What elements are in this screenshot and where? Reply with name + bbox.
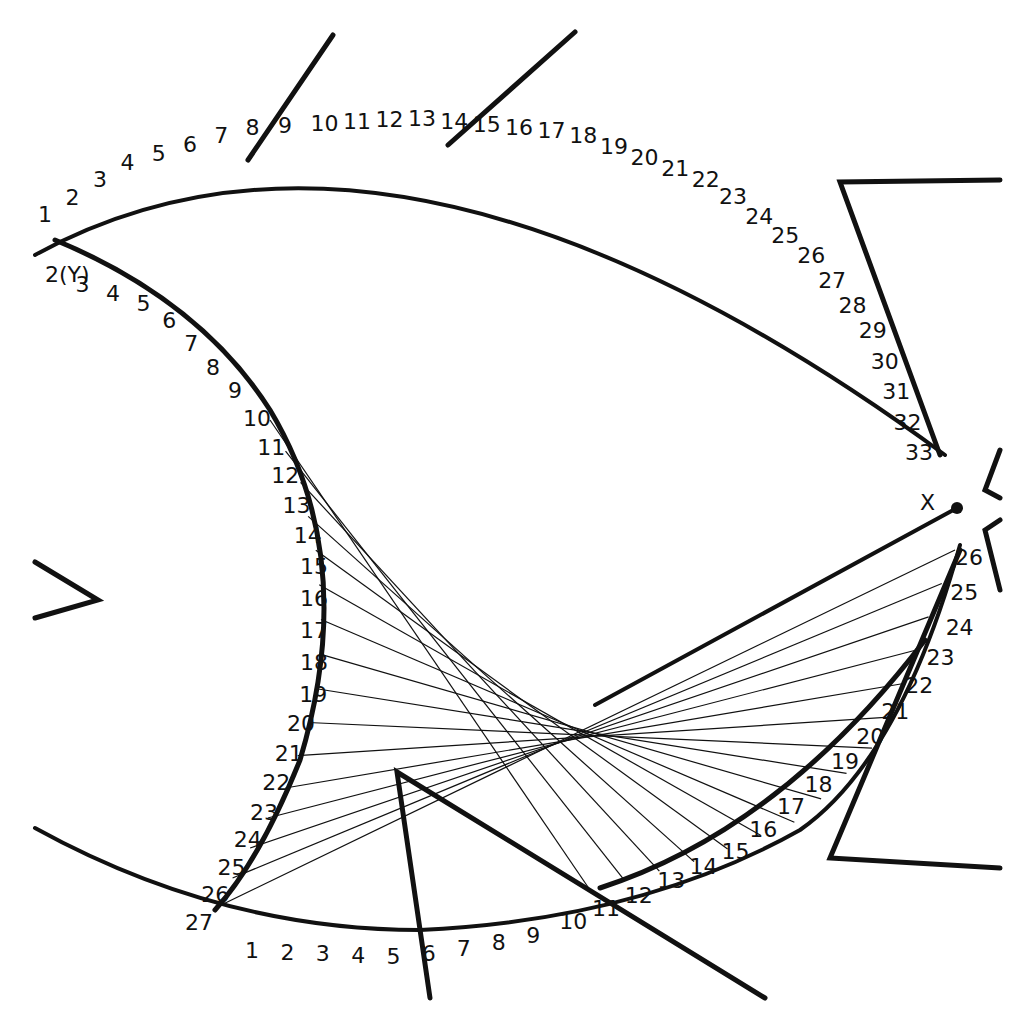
top-arc-label: 32 — [894, 410, 922, 435]
left-arc-label: 14 — [294, 523, 322, 548]
top-arc-label: 7 — [214, 123, 228, 148]
left-arc-label: 21 — [275, 741, 303, 766]
bottom-arc-label: 17 — [777, 794, 805, 819]
left-arc-label: 13 — [282, 493, 310, 518]
left-arc-label: 22 — [262, 770, 290, 795]
bottom-arc-label: 12 — [625, 883, 653, 908]
left-arc-label: 4 — [106, 281, 120, 306]
top-arc-label: 23 — [719, 184, 747, 209]
top-arc-label: 1 — [38, 202, 52, 227]
bold-line-top-left — [248, 35, 333, 160]
string-art-diagram: 1234567891011121314151617181920212223242… — [0, 0, 1029, 1026]
top-arc-label: 28 — [838, 293, 866, 318]
bottom-arc-label: 16 — [749, 817, 777, 842]
top-arc-label: 21 — [661, 156, 689, 181]
string-line — [308, 516, 694, 861]
bottom-arc-label: 24 — [946, 615, 974, 640]
bold-chevron-left — [35, 562, 98, 618]
left-arc-label: 5 — [137, 291, 151, 316]
bottom-arc-label: 25 — [950, 580, 978, 605]
left-arc-label: 9 — [228, 378, 242, 403]
bottom-arc-label: 18 — [805, 772, 833, 797]
left-arc-label: 8 — [206, 355, 220, 380]
left-arc-label: 6 — [162, 308, 176, 333]
top-arc-label: 17 — [537, 118, 565, 143]
top-arc-label: 3 — [93, 167, 107, 192]
bottom-arc-label: 7 — [457, 936, 471, 961]
string-line — [250, 617, 928, 848]
top-arc-label: 6 — [183, 132, 197, 157]
top-arc-label: 19 — [600, 134, 628, 159]
left-arc-label: 11 — [257, 435, 285, 460]
string-line — [321, 619, 794, 822]
left-arc-label: 26 — [201, 882, 229, 907]
bottom-arc-label: 15 — [722, 839, 750, 864]
left-arc-label: 3 — [76, 272, 90, 297]
bold-chevron-right-top — [985, 450, 1000, 498]
bottom-arc-label: 26 — [955, 545, 983, 570]
top-arc-label: 15 — [473, 112, 501, 137]
top-arc-label: 16 — [505, 115, 533, 140]
bottom-arc-label: 5 — [387, 944, 401, 969]
top-arc-label: 4 — [120, 150, 134, 175]
bottom-arc-label: 21 — [881, 699, 909, 724]
top-arc-label: 30 — [871, 349, 899, 374]
left-arc-label: 25 — [218, 855, 246, 880]
bottom-arc-label: 2 — [280, 940, 294, 965]
top-arc-label: 11 — [343, 109, 371, 134]
top-arc-label: 33 — [905, 440, 933, 465]
top-arc-label: 26 — [797, 243, 825, 268]
bottom-arc-label: 4 — [351, 943, 365, 968]
bottom-arc-label: 8 — [492, 930, 506, 955]
top-arc-label: 9 — [278, 113, 292, 138]
bottom-arc-label: 20 — [856, 724, 884, 749]
top-arc-label: 31 — [882, 379, 910, 404]
bottom-arc-label: 14 — [690, 854, 718, 879]
left-arc-label: 18 — [300, 650, 328, 675]
top-arc-label: 12 — [375, 107, 403, 132]
bottom-arc-label: 11 — [592, 896, 620, 921]
bottom-arc-label: 22 — [905, 673, 933, 698]
bottom-arc-label: 23 — [927, 645, 955, 670]
left-arc-label: 15 — [300, 554, 328, 579]
top-arc-label: 22 — [692, 167, 720, 192]
point-x-label: X — [920, 490, 935, 515]
bottom-arc-label: 6 — [422, 941, 436, 966]
top-arc-label: 24 — [745, 204, 773, 229]
left-arc-label: 17 — [300, 618, 328, 643]
left-arc-label: 19 — [299, 682, 327, 707]
left-arc-label: 20 — [287, 711, 315, 736]
bottom-arc-label: 1 — [245, 938, 259, 963]
bottom-arc-label: 9 — [526, 923, 540, 948]
top-arc-label: 10 — [311, 111, 339, 136]
left-arc-label: 7 — [184, 331, 198, 356]
top-arc-label: 29 — [859, 318, 887, 343]
string-line — [319, 585, 761, 836]
top-arc-label: 5 — [152, 141, 166, 166]
top-arc-label: 13 — [408, 106, 436, 131]
bold-line-x-to-left — [595, 508, 957, 705]
left-arc-label: 12 — [271, 463, 299, 488]
left-arc-label: 16 — [300, 586, 328, 611]
left-arc-label: 24 — [234, 827, 262, 852]
top-arc-label: 25 — [771, 223, 799, 248]
top-arc-label: 2 — [65, 185, 79, 210]
top-arc-label: 14 — [440, 109, 468, 134]
left-arc-label: 27 — [185, 910, 213, 935]
bold-chevron-right-bottom — [985, 520, 1000, 590]
bottom-arc — [35, 545, 960, 930]
top-arc-label: 20 — [631, 145, 659, 170]
top-arc-label: 27 — [818, 268, 846, 293]
top-arc-label: 8 — [246, 115, 260, 140]
left-arc-label: 10 — [243, 406, 271, 431]
bottom-arc-label: 13 — [657, 868, 685, 893]
bottom-arc-label: 3 — [316, 941, 330, 966]
top-arc-label: 18 — [569, 123, 597, 148]
left-arc-label: 23 — [250, 800, 278, 825]
bottom-arc-label: 10 — [559, 909, 587, 934]
string-line — [286, 451, 625, 880]
bottom-arc-label: 19 — [831, 749, 859, 774]
point-x-dot — [951, 502, 963, 514]
